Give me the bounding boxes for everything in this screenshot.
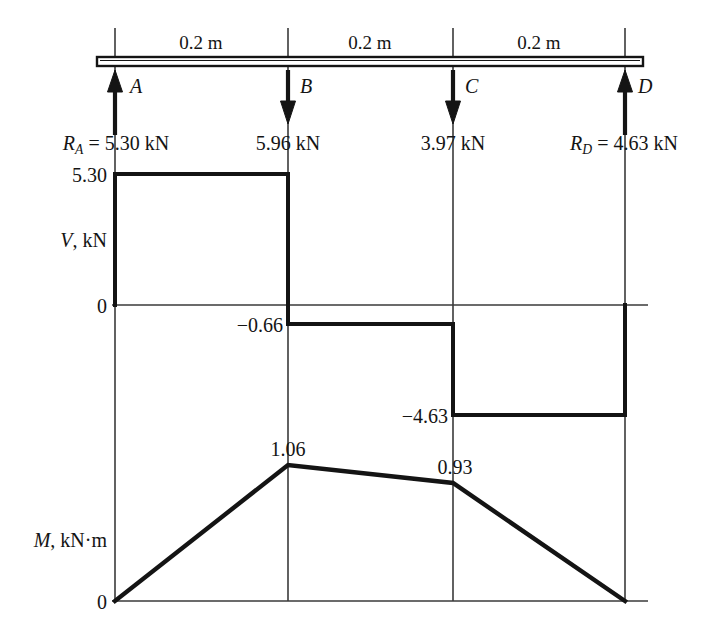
moment-trace (115, 465, 625, 601)
shear-trace (115, 174, 625, 415)
arrow-reaction-d (618, 70, 633, 135)
reaction-d-symbol: R (570, 132, 582, 154)
force-label-load-c: 3.97 kN (421, 133, 485, 153)
moment-diagram-plot (112, 465, 648, 601)
shear-axis-symbol: V (60, 229, 72, 251)
reaction-a-magnitude: 5.30 (105, 132, 140, 154)
moment-value-peak-c: 0.93 (438, 457, 473, 477)
force-arrows (108, 70, 633, 135)
moment-zero-label: 0 (97, 592, 107, 612)
force-label-load-b: 5.96 kN (256, 133, 320, 153)
station-guide-lines (115, 28, 625, 601)
node-label-b: B (300, 76, 312, 96)
beam-diagram-figure: 0.2 m 0.2 m 0.2 m A B C D RA = 5.30 kN 5… (0, 0, 704, 636)
reaction-d-unit: kN (653, 132, 677, 154)
node-label-c: C (465, 76, 478, 96)
load-c-magnitude: 3.97 (421, 132, 456, 154)
shear-diagram-plot (112, 174, 648, 415)
node-label-a: A (130, 76, 142, 96)
shear-zero-label: 0 (97, 296, 107, 316)
reaction-a-subscript: A (75, 142, 83, 157)
beam-member (97, 57, 643, 66)
moment-axis-unit: , kN·m (50, 529, 107, 551)
shear-axis-unit: , kN (73, 229, 107, 251)
shear-axis-label: V, kN (60, 230, 107, 250)
reaction-d-magnitude: 4.63 (613, 132, 648, 154)
load-b-unit: kN (296, 132, 320, 154)
moment-axis-label: M, kN·m (34, 530, 107, 550)
shear-value-right-negative: −4.63 (402, 406, 448, 426)
reaction-d-subscript: D (582, 142, 592, 157)
reaction-a-symbol: R (63, 132, 75, 154)
reaction-a-equals: = (88, 132, 99, 154)
force-label-reaction-a: RA = 5.30 kN (63, 133, 169, 156)
moment-axis-symbol: M (34, 529, 51, 551)
load-c-unit: kN (461, 132, 485, 154)
dimension-label-bc: 0.2 m (348, 33, 391, 52)
shear-value-peak: 5.30 (72, 165, 107, 185)
dimension-label-cd: 0.2 m (517, 33, 560, 52)
arrow-load-b (281, 70, 296, 124)
moment-value-peak-b: 1.06 (271, 439, 306, 459)
arrow-reaction-a (108, 70, 123, 135)
node-label-d: D (638, 76, 652, 96)
load-b-magnitude: 5.96 (256, 132, 291, 154)
shear-value-mid-negative: −0.66 (237, 315, 283, 335)
dimension-label-ab: 0.2 m (179, 33, 222, 52)
arrow-load-c (446, 70, 461, 124)
force-label-reaction-d: RD = 4.63 kN (570, 133, 678, 156)
reaction-d-equals: = (597, 132, 608, 154)
reaction-a-unit: kN (145, 132, 169, 154)
